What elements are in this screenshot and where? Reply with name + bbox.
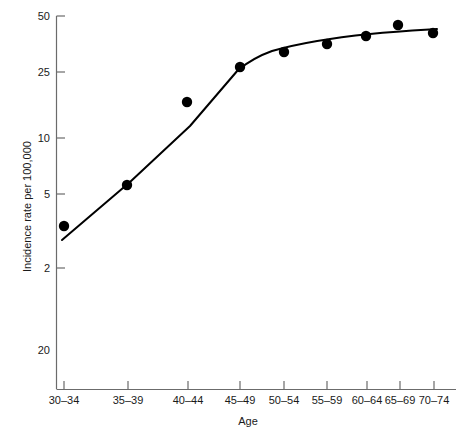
data-point: [428, 28, 438, 38]
data-point: [279, 47, 289, 57]
x-tick-label-70-74: 70–74: [419, 395, 450, 406]
data-point-markers: [59, 20, 438, 231]
data-point: [182, 97, 192, 107]
x-tick-label-30-34: 30–34: [49, 395, 80, 406]
x-tick-label-45-49: 45–49: [225, 395, 256, 406]
x-axis-ticks: [64, 381, 434, 390]
x-tick-label-35-39: 35–39: [113, 395, 144, 406]
x-tick-label-55-59: 55–59: [312, 395, 343, 406]
y-tick-label-25: 25: [20, 67, 50, 78]
incidence-rate-chart: 50 25 10 5 2 20 30–34 35–39 40–44 45–49 …: [0, 0, 465, 439]
data-point: [393, 20, 403, 30]
chart-canvas: [0, 0, 465, 439]
x-tick-label-60-64: 60–64: [352, 395, 383, 406]
data-point: [59, 221, 69, 231]
x-axis-title: Age: [238, 416, 258, 427]
data-point: [322, 39, 332, 49]
y-axis-title: Incidence rate per 100,000: [22, 141, 33, 272]
x-tick-label-65-69: 65–69: [385, 395, 416, 406]
x-tick-label-50-54: 50–54: [269, 395, 300, 406]
data-point: [235, 62, 245, 72]
y-tick-label-20: 20: [20, 345, 50, 356]
fitted-curve: [62, 29, 437, 240]
x-tick-label-40-44: 40–44: [173, 395, 204, 406]
y-tick-label-50: 50: [20, 11, 50, 22]
data-point: [361, 31, 371, 41]
data-point: [122, 180, 132, 190]
